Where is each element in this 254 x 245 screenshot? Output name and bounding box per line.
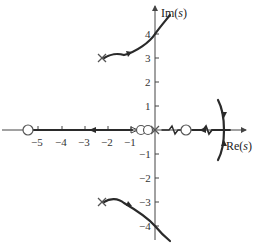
- y-tick-label: 3: [145, 52, 151, 64]
- x-tick-label: −4: [55, 136, 67, 148]
- y-tick-label: −3: [139, 196, 151, 208]
- y-tick-label: 4: [145, 28, 151, 40]
- y-tick-label: 1: [145, 100, 151, 112]
- root-locus-diagram: −5 −4 −3 −2 −1 4 3 2 1 −1 −2 −3 −4 Im(s)…: [0, 0, 254, 245]
- x-tick-label: −2: [101, 136, 113, 148]
- y-tick-label: −1: [139, 148, 151, 160]
- x-tick-labels: −5 −4 −3 −2 −1: [31, 136, 136, 148]
- x-tick-label: −1: [124, 136, 136, 148]
- im-axis-label: Im(s): [161, 6, 187, 20]
- zero-marker: [181, 125, 191, 135]
- zero-marker: [144, 126, 153, 135]
- x-tick-label: −3: [78, 136, 90, 148]
- zero-marker: [23, 125, 33, 135]
- x-tick-label: −5: [31, 136, 43, 148]
- re-axis-label: Re(s): [226, 139, 252, 153]
- y-tick-label: −2: [139, 172, 151, 184]
- y-tick-label: 2: [145, 76, 151, 88]
